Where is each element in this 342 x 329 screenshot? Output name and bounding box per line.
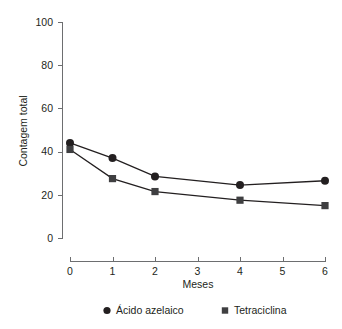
series-1 — [66, 139, 329, 189]
y-tick-label: 100 — [35, 16, 53, 28]
y-tick-label: 80 — [41, 59, 53, 71]
x-tick-label: 5 — [280, 265, 286, 277]
x-tick-label: 6 — [322, 265, 328, 277]
legend-label: Tetraciclina — [234, 304, 287, 316]
y-axis-title: Contagem total — [17, 95, 29, 166]
y-axis-ticks: 020406080100 — [35, 16, 62, 244]
data-point-square-marker[interactable] — [109, 175, 116, 182]
data-point-square-marker[interactable] — [321, 202, 328, 209]
x-tick-label: 0 — [67, 265, 73, 277]
series-line — [70, 143, 325, 185]
data-point-circle-marker[interactable] — [66, 139, 74, 147]
x-tick-label: 4 — [237, 265, 243, 277]
data-point-circle-marker[interactable] — [109, 154, 117, 162]
circle-marker-icon — [103, 307, 110, 314]
data-point-square-marker[interactable] — [236, 197, 243, 204]
legend-label: Ácido azelaico — [116, 304, 184, 316]
square-marker-icon — [222, 307, 228, 313]
x-axis-title: Meses — [183, 278, 214, 290]
chart-figure: 020406080100 0123456 Contagem total Mese… — [0, 0, 342, 329]
data-point-circle-marker[interactable] — [236, 181, 244, 189]
y-tick-label: 40 — [41, 145, 53, 157]
chart-legend: Ácido azelaicoTetraciclina — [103, 304, 286, 316]
data-point-circle-marker[interactable] — [321, 177, 329, 185]
series-layer — [66, 139, 329, 209]
data-point-square-marker[interactable] — [151, 188, 158, 195]
data-point-square-marker[interactable] — [66, 146, 73, 153]
x-tick-label: 1 — [110, 265, 116, 277]
y-tick-label: 0 — [47, 232, 53, 244]
series-line — [70, 149, 325, 205]
x-tick-label: 3 — [195, 265, 201, 277]
line-chart: 020406080100 0123456 Contagem total Mese… — [0, 0, 342, 329]
x-axis-ticks: 0123456 — [67, 257, 328, 278]
y-tick-label: 20 — [41, 189, 53, 201]
y-tick-label: 60 — [41, 102, 53, 114]
data-point-circle-marker[interactable] — [151, 172, 159, 180]
x-tick-label: 2 — [152, 265, 158, 277]
